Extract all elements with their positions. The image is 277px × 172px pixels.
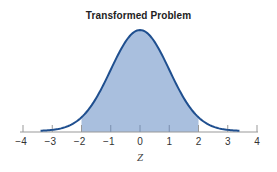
- x-tick-label: 0: [137, 136, 143, 147]
- x-axis-label: Z: [137, 151, 144, 163]
- x-tick-label: −3: [45, 136, 57, 147]
- x-axis-tick-labels: −4−3−2−101234: [15, 136, 260, 147]
- x-tick-label: 3: [225, 136, 231, 147]
- normal-distribution-chart: −4−3−2−101234 Z: [0, 0, 277, 172]
- shaded-area-minus2-to-2: [82, 30, 199, 132]
- x-tick-label: −1: [103, 136, 115, 147]
- x-tick-label: −2: [74, 136, 86, 147]
- x-tick-label: 4: [254, 136, 260, 147]
- x-tick-label: 1: [166, 136, 172, 147]
- x-tick-label: 2: [196, 136, 202, 147]
- x-tick-label: −4: [15, 136, 27, 147]
